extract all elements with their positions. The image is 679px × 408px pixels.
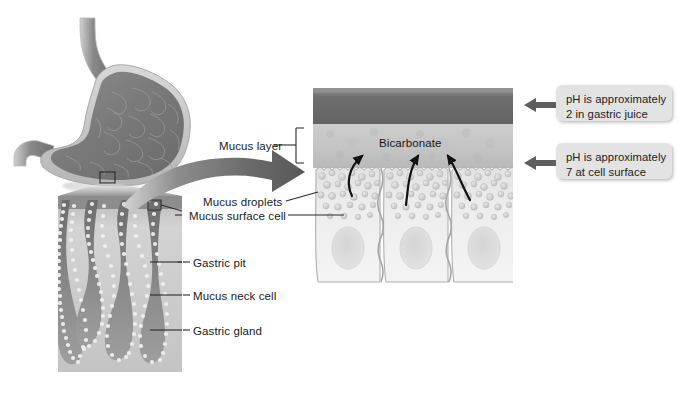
label-bicarbonate: Bicarbonate: [379, 137, 441, 149]
surface-epithelium-detail: [313, 88, 516, 282]
label-gastric-pit: Gastric pit: [193, 256, 246, 271]
figure-canvas: Mucus layer Bicarbonate Mucus droplets M…: [0, 0, 679, 408]
gastric-juice-band: [313, 88, 513, 124]
gastric-gland-micrograph: [56, 196, 182, 372]
bracket-mucus-layer: [296, 128, 304, 163]
label-mucus-layer: Mucus layer: [219, 139, 282, 154]
cell-nuclei: [332, 227, 500, 269]
callout-arrows: [524, 98, 556, 170]
leader-mucus-droplets: [286, 192, 318, 201]
callout-text-cell-surface: pH is approximately 7 at cell surface: [566, 150, 670, 180]
label-mucus-droplets: Mucus droplets: [203, 195, 282, 210]
callout-arrow-gastric-juice: [524, 98, 556, 112]
label-gastric-gland: Gastric gland: [193, 324, 262, 339]
callout-arrow-cell-surface: [524, 156, 556, 170]
callout-text-gastric-juice: pH is approximately 2 in gastric juice: [566, 92, 670, 122]
label-mucus-neck-cell: Mucus neck cell: [193, 289, 276, 304]
label-mucus-surface-cell: Mucus surface cell: [189, 209, 286, 224]
diagram-artwork: [0, 0, 679, 408]
